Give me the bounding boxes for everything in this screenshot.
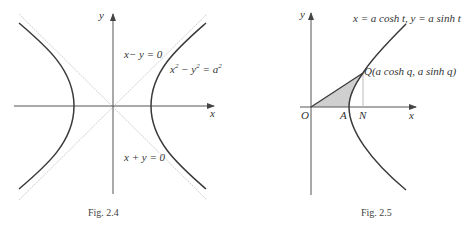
- asymptote-label-x-minus-y: x− y = 0: [123, 48, 163, 60]
- point-q-label: Q(a cosh q, a sinh q): [364, 65, 457, 78]
- param-equation-label: x = a cosh t, y = a sinh t: [352, 12, 462, 24]
- eq-a: = a: [200, 63, 219, 75]
- point-o-label: O: [301, 109, 309, 121]
- eq-y: − y: [178, 63, 196, 75]
- point-a-label: A: [339, 109, 347, 121]
- figure-caption-2-5: Fig. 2.5: [361, 207, 392, 218]
- figure-2-5: y x x = a cosh t, y = a sinh t Q(a cosh …: [299, 8, 462, 218]
- eq-exp-3: 2: [218, 62, 222, 70]
- y-axis-label: y: [299, 8, 305, 20]
- hyperbola-equation-label: x2 − y2 = a2: [169, 62, 222, 75]
- diagram-canvas: y x x− y = 0 x + y = 0 x2 − y2 = a2 Fig.…: [0, 0, 465, 225]
- y-axis-label: y: [98, 9, 104, 21]
- asymptote-label-x-plus-y: x + y = 0: [123, 151, 166, 163]
- point-n-label: N: [358, 109, 367, 121]
- x-axis-label: x: [209, 107, 215, 119]
- x-axis-label: x: [408, 109, 414, 121]
- figure-caption-2-4: Fig. 2.4: [88, 207, 119, 218]
- figure-2-4: y x x− y = 0 x + y = 0 x2 − y2 = a2 Fig.…: [14, 9, 222, 218]
